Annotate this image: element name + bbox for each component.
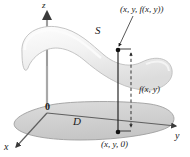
lower-point-marker [116,130,121,135]
upper-point-leader [119,16,133,46]
domain-body [14,102,174,140]
x-axis-label: x [4,142,8,152]
surface-body [22,26,172,90]
origin-label: 0 [45,102,50,112]
surface-over-domain-figure: z x y 0 S D (x, y, f(x, y)) (x, y, 0) f(… [0,0,190,157]
height-measure-label: f(x, y) [139,85,160,94]
surface-label: S [95,25,101,36]
z-axis-label: z [42,1,46,10]
y-axis-label: y [175,131,179,141]
domain-shape [14,102,174,140]
domain-label: D [73,116,81,127]
leader-line [119,16,133,46]
surface-shape [22,26,172,90]
upper-point-label: (x, y, f(x, y)) [120,5,163,14]
lower-point-label: (x, y, 0) [101,140,128,149]
upper-point-marker [116,48,121,53]
